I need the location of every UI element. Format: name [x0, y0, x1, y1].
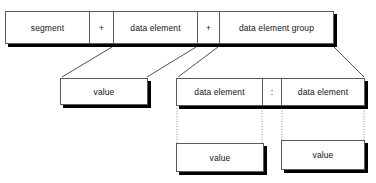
cell-colon-operator: :	[262, 79, 281, 105]
diagram-canvas: segment + data element + data element gr…	[0, 0, 376, 183]
value-box-bottom-right: value	[281, 140, 365, 170]
cell-data-element-a: data element	[177, 79, 262, 105]
cell-plus-operator-1: +	[89, 12, 113, 43]
value-box-bottom-left: value	[176, 143, 264, 172]
cell-data-element-group: data element group	[219, 12, 333, 43]
value-box-left: value	[60, 78, 148, 105]
connector-dataelement-to-value-right	[147, 47, 196, 77]
data-element-pair-box: data element : data element	[176, 78, 365, 106]
cell-data-element: data element	[113, 12, 197, 43]
cell-value: value	[177, 144, 263, 171]
segment-decomposition-box: segment + data element + data element gr…	[5, 11, 334, 44]
cell-data-element-b: data element	[281, 79, 364, 105]
cell-value: value	[282, 141, 364, 169]
cell-segment: segment	[6, 12, 89, 43]
connector-deg-to-pair-left	[178, 47, 218, 77]
connector-deg-to-pair-right	[334, 47, 364, 77]
cell-value: value	[61, 79, 147, 104]
cell-plus-operator-2: +	[197, 12, 219, 43]
connector-dataelement-to-value	[62, 47, 112, 77]
